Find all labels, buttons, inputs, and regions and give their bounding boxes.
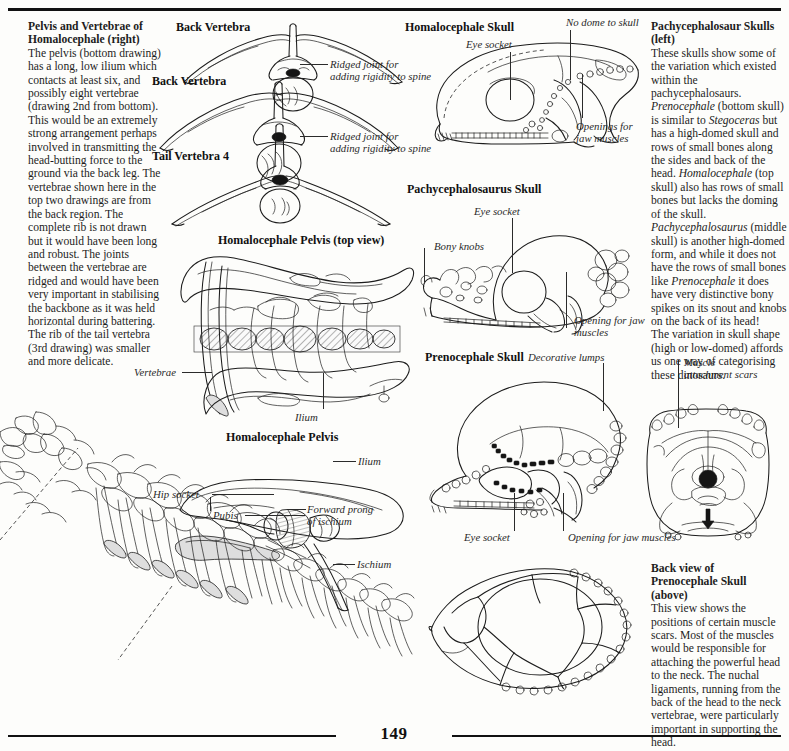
right-top-paragraph-3: The variation in skull shape (high or lo… <box>651 328 787 382</box>
prenocephale-skull-eye-socket-leader <box>514 493 515 531</box>
pachycephalosaurus-skull-label-bony-knobs: Bony knobs <box>434 240 484 252</box>
homalocephale-skull-openings-leader <box>582 74 583 118</box>
left-text-heading-line1: Pelvis and Vertebrae of <box>28 20 164 33</box>
pachycephalosaurus-skull-label-eye-socket: Eye socket <box>474 205 520 217</box>
tail-vertebra-4-figure <box>168 124 394 234</box>
prenocephale-skull-decorative-lumps-leader <box>603 363 604 411</box>
homalocephale-skull-label-openings: Openings for jaw muscles <box>576 120 633 144</box>
skeleton-spine-tail-figure <box>0 412 420 722</box>
back-vertebra-1-leader-line <box>300 64 328 65</box>
prenocephale-top-view-figure <box>428 557 644 697</box>
right-top-paragraph-2: Pachycephalosaurus (middle skull) is ano… <box>651 221 787 328</box>
left-text-heading-line2: Homalocephale (right) <box>28 33 164 46</box>
right-top-heading-line2: (left) <box>651 33 787 46</box>
right-column-text-top: Pachycephalosaur Skulls (left) These sku… <box>651 20 787 382</box>
pachycephalosaurus-skull-opening-leader <box>566 272 567 328</box>
right-top-paragraph-1: These skulls show some of the variation … <box>651 47 787 221</box>
back-vertebra-1-callout: Ridged joint for adding rigidity to spin… <box>330 58 431 82</box>
pelvis-top-label-vertebrae: Vertebrae <box>134 366 176 378</box>
footer-rule-left <box>8 735 336 737</box>
left-column-text: Pelvis and Vertebrae of Homalocephale (r… <box>28 20 164 369</box>
pelvis-top-ilium-leader <box>323 373 324 409</box>
footer-rule-right <box>452 735 781 737</box>
pachycephalosaurus-skull-label-opening: Opening for jaw muscles <box>574 314 645 338</box>
page-number: 149 <box>336 724 452 744</box>
right-column-text-bottom: Back view of Prenocephale Skull (above) … <box>651 562 787 750</box>
prenocephale-skull-heading: Prenocephale Skull <box>425 350 524 365</box>
homalocephale-skull-label-no-dome: No dome to skull <box>566 16 639 28</box>
left-text-body: The pelvis (bottom drawing) has a long, … <box>28 47 164 369</box>
prenocephale-skull-opening-jaw-leader <box>563 493 564 531</box>
prenocephale-skull-figure <box>424 368 644 528</box>
prenocephale-back-view-figure <box>632 385 784 545</box>
prenocephale-skull-label-eye-socket: Eye socket <box>464 531 510 543</box>
homalocephale-skull-heading: Homalocephale Skull <box>405 20 514 35</box>
right-bottom-heading-line3: (above) <box>651 589 787 602</box>
right-bottom-body: This view shows the positions of certain… <box>651 602 787 749</box>
page-top-rule <box>8 8 781 11</box>
right-bottom-heading-line1: Back view of <box>651 562 787 575</box>
pachycephalosaurus-skull-bony-knobs-leader <box>424 248 425 282</box>
homalocephale-pelvis-top-figure <box>170 248 420 418</box>
pelvis-top-vertebrae-leader <box>182 372 212 373</box>
homalocephale-skull-figure <box>428 36 646 164</box>
homalocephale-skull-no-dome-leader <box>570 30 571 80</box>
pachycephalosaurus-skull-eye-socket-leader <box>512 218 513 273</box>
homalocephale-skull-eye-socket-leader <box>510 52 511 100</box>
homalocephale-skull-label-eye-socket: Eye socket <box>466 38 512 50</box>
book-page: Pelvis and Vertebrae of Homalocephale (r… <box>0 0 789 751</box>
pachycephalosaurus-skull-heading: Pachycephalosaurus Skull <box>407 182 541 197</box>
prenocephale-skull-label-decorative-lumps: Decorative lumps <box>528 351 604 363</box>
right-bottom-heading-line2: Prenocephale Skull <box>651 575 787 588</box>
right-top-heading-line1: Pachycephalosaur Skulls <box>651 20 787 33</box>
homalocephale-pelvis-top-heading: Homalocephale Pelvis (top view) <box>218 233 384 248</box>
